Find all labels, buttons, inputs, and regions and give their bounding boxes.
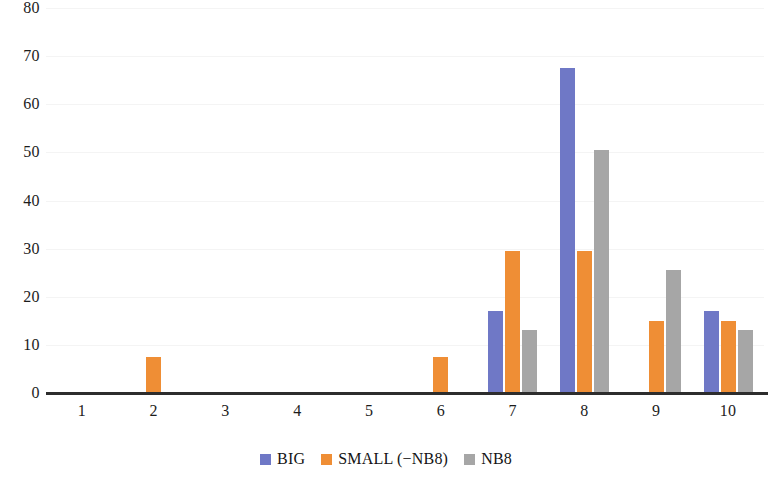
legend-label: NB8 <box>481 450 512 468</box>
y-axis-tick-label: 30 <box>6 241 40 257</box>
y-axis-tick-label: 40 <box>6 193 40 209</box>
x-axis-tick-label: 7 <box>477 400 549 424</box>
y-axis-tick-label: 10 <box>6 337 40 353</box>
bar-group-8 <box>549 8 621 393</box>
x-axis-tick-label: 10 <box>692 400 764 424</box>
y-axis: 01020304050607080 <box>0 8 40 397</box>
bar-small-nb8-9 <box>649 321 664 393</box>
bar-group-10 <box>692 8 764 393</box>
x-axis: 12345678910 <box>46 400 764 424</box>
bar-small-nb8-7 <box>505 251 520 393</box>
legend-label: BIG <box>277 450 305 468</box>
bar-group-5 <box>333 8 405 393</box>
x-axis-line <box>46 392 768 395</box>
bar-group-9 <box>620 8 692 393</box>
legend-entry-nb8[interactable]: NB8 <box>464 450 512 468</box>
x-axis-tick-label: 5 <box>333 400 405 424</box>
x-axis-tick-label: 3 <box>190 400 262 424</box>
bar-big-7 <box>488 311 503 393</box>
bar-group-4 <box>261 8 333 393</box>
x-axis-tick-label: 2 <box>118 400 190 424</box>
legend-swatch-icon <box>464 454 475 465</box>
x-axis-tick-label: 9 <box>620 400 692 424</box>
x-axis-tick-label: 6 <box>405 400 477 424</box>
bar-group-7 <box>477 8 549 393</box>
x-axis-tick-label: 4 <box>261 400 333 424</box>
bar-big-10 <box>704 311 719 393</box>
bar-small-nb8-10 <box>721 321 736 393</box>
y-axis-tick-label: 0 <box>6 385 40 401</box>
y-axis-tick-label: 70 <box>6 48 40 64</box>
legend-entry-small-nb8[interactable]: SMALL (−NB8) <box>321 450 448 468</box>
chart-legend: BIGSMALL (−NB8)NB8 <box>0 450 772 468</box>
bar-small-nb8-6 <box>433 357 448 393</box>
bar-nb8-7 <box>522 330 537 393</box>
legend-swatch-icon <box>260 454 271 465</box>
bar-chart-figure: 01020304050607080 12345678910 BIGSMALL (… <box>0 0 772 482</box>
bar-group-6 <box>405 8 477 393</box>
bar-big-8 <box>560 68 575 393</box>
bar-group-2 <box>118 8 190 393</box>
bar-nb8-8 <box>594 150 609 393</box>
y-axis-tick-label: 80 <box>6 0 40 16</box>
legend-entry-big[interactable]: BIG <box>260 450 305 468</box>
legend-swatch-icon <box>321 454 332 465</box>
bar-group-3 <box>190 8 262 393</box>
y-axis-tick-label: 20 <box>6 289 40 305</box>
bar-small-nb8-2 <box>146 357 161 393</box>
legend-label: SMALL (−NB8) <box>338 450 448 468</box>
bar-nb8-10 <box>738 330 753 393</box>
x-axis-tick-label: 1 <box>46 400 118 424</box>
y-axis-tick-label: 50 <box>6 144 40 160</box>
y-axis-tick-label: 60 <box>6 96 40 112</box>
bar-small-nb8-8 <box>577 251 592 393</box>
bar-groups <box>46 8 764 393</box>
x-axis-tick-label: 8 <box>549 400 621 424</box>
bar-group-1 <box>46 8 118 393</box>
bar-nb8-9 <box>666 270 681 393</box>
